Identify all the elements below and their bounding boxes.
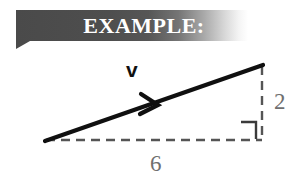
run-label: 6 bbox=[150, 152, 162, 175]
example-figure: EXAMPLE: v 2 6 bbox=[0, 0, 298, 181]
rise-label: 2 bbox=[274, 90, 286, 113]
vector-label: v bbox=[126, 59, 138, 80]
right-angle-icon bbox=[241, 122, 256, 139]
vector-triangle-diagram bbox=[0, 0, 298, 181]
